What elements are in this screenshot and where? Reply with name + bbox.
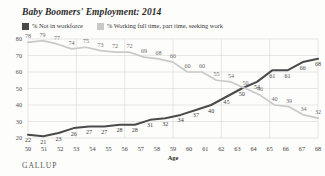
data-label: 72 [126, 43, 132, 49]
data-label: 55 [213, 71, 219, 77]
data-label: 31 [147, 122, 153, 128]
legend-label-working: % Working full time, part time, seeking … [107, 23, 223, 29]
x-axis-tick: 67 [299, 146, 305, 152]
data-label: 32 [162, 121, 168, 127]
x-axis-tick: 66 [283, 146, 289, 152]
x-axis-tick: 63 [234, 146, 240, 152]
data-label: 50 [239, 91, 245, 97]
data-label: 28 [117, 127, 123, 133]
data-label: 32 [315, 109, 321, 115]
data-label: 75 [83, 38, 89, 44]
x-axis-tick-labels: 50515253545556575859606162636465666768 [0, 146, 325, 158]
data-label: 27 [86, 129, 92, 135]
x-axis-tick: 55 [105, 146, 111, 152]
x-axis-tick: 57 [138, 146, 144, 152]
data-label: 74 [68, 40, 74, 46]
data-label: 73 [97, 42, 103, 48]
data-label: 60 [184, 63, 190, 69]
legend-label-not-in-workforce: % Not in workforce [32, 23, 83, 29]
x-axis-tick: 52 [57, 146, 63, 152]
data-label: 66 [170, 53, 176, 59]
x-axis-title: Age [168, 154, 179, 161]
x-axis-tick: 51 [41, 146, 47, 152]
data-label: 34 [300, 106, 306, 112]
data-label: 23 [55, 136, 61, 142]
legend-swatch-icon-dark [22, 23, 29, 30]
data-label: 27 [101, 129, 107, 135]
data-label: 66 [300, 65, 306, 71]
data-label: 26 [71, 131, 77, 137]
gallup-logo: GALLUP [22, 161, 57, 170]
data-label: 34 [178, 117, 184, 123]
data-label: 40 [208, 108, 214, 114]
x-axis-tick: 59 [170, 146, 176, 152]
x-axis-tick: 60 [186, 146, 192, 152]
x-axis-tick: 58 [154, 146, 160, 152]
data-label: 37 [193, 112, 199, 118]
x-axis-tick: 56 [122, 146, 128, 152]
data-label: 77 [54, 35, 60, 41]
data-label: 72 [112, 43, 118, 49]
data-label: 68 [155, 50, 161, 56]
legend-swatch-icon-light [97, 23, 104, 30]
legend-item-working: % Working full time, part time, seeking … [97, 23, 223, 30]
chart-legend: % Not in workforce % Working full time, … [22, 23, 223, 30]
x-axis-tick: 50 [25, 146, 31, 152]
data-label: 46 [257, 86, 263, 92]
chart-figure: Baby Boomers' Employment: 2014 % Not in … [0, 0, 325, 176]
data-label: 22 [25, 137, 31, 143]
data-label: 39 [286, 98, 292, 104]
chart-title: Baby Boomers' Employment: 2014 [22, 7, 161, 17]
data-label: 50 [242, 80, 248, 86]
x-axis-tick: 54 [89, 146, 95, 152]
chart-canvas [0, 34, 325, 146]
data-label: 79 [39, 32, 45, 38]
data-label: 28 [132, 127, 138, 133]
data-label: 61 [269, 73, 275, 79]
plot-area: 20304050607080 2221232627272828313234374… [0, 34, 325, 146]
x-axis-tick: 68 [315, 146, 321, 152]
data-label: 68 [315, 61, 321, 67]
data-label: 54 [228, 73, 234, 79]
x-axis-tick: 62 [218, 146, 224, 152]
data-label: 40 [271, 96, 277, 102]
x-axis-tick: 64 [250, 146, 256, 152]
x-axis-tick: 53 [73, 146, 79, 152]
data-label: 69 [141, 48, 147, 54]
data-label: 61 [284, 73, 290, 79]
x-axis-tick: 61 [202, 146, 208, 152]
legend-item-not-in-workforce: % Not in workforce [22, 23, 83, 30]
x-axis-tick: 65 [267, 146, 273, 152]
data-label: 45 [223, 99, 229, 105]
data-label: 78 [25, 33, 31, 39]
data-label: 60 [199, 63, 205, 69]
